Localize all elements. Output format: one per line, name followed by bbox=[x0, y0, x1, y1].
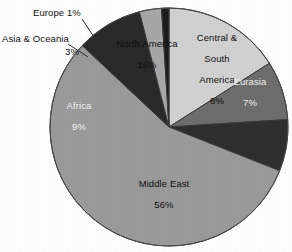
pie-chart: Europe 1% Asia & Oceania 3% North Americ… bbox=[0, 0, 292, 252]
callout-label-europe: Europe 1% bbox=[33, 7, 81, 18]
callout-label-asia-oceania: Asia & Oceania bbox=[2, 33, 69, 44]
europe-leader-line bbox=[82, 19, 96, 40]
pie-slices bbox=[50, 8, 288, 246]
